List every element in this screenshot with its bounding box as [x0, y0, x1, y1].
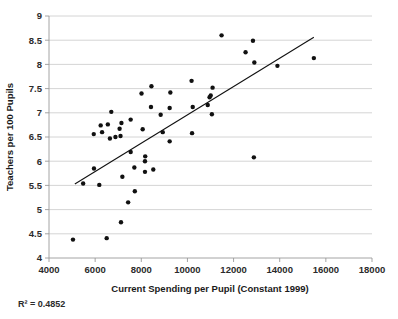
data-point — [119, 121, 123, 125]
data-point — [149, 84, 153, 88]
y-tick-label: 4 — [37, 252, 43, 263]
data-point — [189, 79, 193, 83]
data-point — [118, 134, 122, 138]
data-point — [104, 236, 108, 240]
y-tick-label: 6.5 — [29, 131, 43, 142]
data-point — [143, 159, 147, 163]
data-point — [108, 136, 112, 140]
data-point — [97, 183, 101, 187]
gridlines-group — [49, 16, 372, 234]
data-point — [100, 130, 104, 134]
data-point — [210, 85, 214, 89]
data-point — [109, 110, 113, 114]
data-point — [191, 105, 195, 109]
x-tick-label: 8000 — [131, 264, 152, 275]
data-point — [140, 127, 144, 131]
data-point — [139, 91, 143, 95]
x-tick-label: 6000 — [85, 264, 106, 275]
x-tick-label: 18000 — [359, 264, 385, 275]
data-point — [251, 38, 255, 42]
data-point — [126, 200, 130, 204]
x-tick-label: 10000 — [174, 264, 200, 275]
data-point — [219, 33, 223, 37]
data-point — [252, 60, 256, 64]
data-point — [128, 117, 132, 121]
y-tick-label: 9 — [37, 10, 42, 21]
data-point — [81, 181, 85, 185]
r-squared-annotation: R² = 0.4852 — [18, 299, 65, 309]
y-tick-label: 7.5 — [29, 83, 43, 94]
data-point — [210, 112, 214, 116]
data-point — [132, 165, 136, 169]
data-point — [113, 135, 117, 139]
data-point — [167, 139, 171, 143]
data-point — [71, 237, 75, 241]
data-point — [92, 132, 96, 136]
data-point — [143, 154, 147, 158]
y-axis-title: Teachers per 100 Pupils — [4, 83, 15, 191]
chart-canvas: 44.555.566.577.588.59 400060008000100001… — [0, 0, 398, 319]
data-point — [151, 167, 155, 171]
y-tick-label: 8 — [37, 59, 42, 70]
data-point — [312, 56, 316, 60]
data-point — [252, 155, 256, 159]
data-point — [119, 220, 123, 224]
x-tick-label: 4000 — [38, 264, 59, 275]
data-point — [120, 174, 124, 178]
data-point — [190, 131, 194, 135]
data-point — [92, 166, 96, 170]
x-tick-label: 16000 — [313, 264, 339, 275]
data-point — [243, 50, 247, 54]
x-tick-label: 14000 — [267, 264, 293, 275]
data-point — [98, 123, 102, 127]
tickmarks-group — [45, 16, 372, 262]
y-tick-label: 5 — [37, 204, 43, 215]
data-point — [158, 113, 162, 117]
y-tick-label: 5.5 — [29, 180, 43, 191]
scatter-chart: 44.555.566.577.588.59 400060008000100001… — [0, 0, 398, 319]
data-point — [149, 105, 153, 109]
data-point — [117, 127, 121, 131]
y-tick-label: 6 — [37, 156, 42, 167]
y-tick-label: 8.5 — [29, 35, 43, 46]
x-axis-title: Current Spending per Pupil (Constant 199… — [111, 283, 308, 294]
y-tick-label: 4.5 — [29, 228, 43, 239]
data-point — [168, 90, 172, 94]
data-point — [275, 64, 279, 68]
data-point — [133, 189, 137, 193]
data-point — [143, 170, 147, 174]
data-point — [167, 106, 171, 110]
x-tick-label: 12000 — [220, 264, 246, 275]
data-point — [209, 93, 213, 97]
y-tick-label: 7 — [37, 107, 42, 118]
y-axis-tick-labels: 44.555.566.577.588.59 — [29, 10, 43, 263]
x-axis-tick-labels: 4000600080001000012000140001600018000 — [38, 264, 385, 275]
data-point — [106, 122, 110, 126]
